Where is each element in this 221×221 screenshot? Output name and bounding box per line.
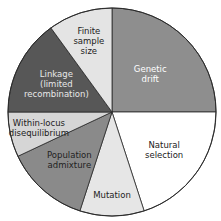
slice-label: Populationadmixture: [47, 150, 92, 170]
slice-label: Within-locusdisequilibrium: [9, 118, 69, 138]
slice-label: Naturalselection: [145, 140, 183, 160]
pie-chart: GeneticdriftNaturalselectionMutationPopu…: [0, 0, 221, 221]
pie-slice-genetic-drift: [112, 8, 216, 112]
slice-label: Mutation: [93, 190, 131, 200]
